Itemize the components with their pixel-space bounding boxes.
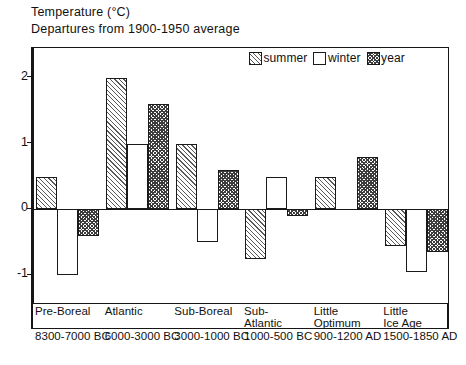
- category-date-line-1: 1000-: [244, 330, 274, 342]
- plot-inner-canvas: [32, 48, 448, 303]
- bar-summer-atlantic: [106, 78, 127, 210]
- category-name-row: Pre-BorealAtlanticSub-BorealSub-Atlantic…: [31, 304, 449, 329]
- bar-winter-sub-boreal: [197, 209, 218, 242]
- y-tick-label: 1: [8, 135, 28, 149]
- bar-year-sub-atlantic: [287, 209, 308, 216]
- category-date-5: 900-1200 AD: [314, 330, 382, 343]
- legend-label-winter: winter: [328, 51, 361, 65]
- chart-subtitle-line-2: Departures from 1900-1950 average: [31, 21, 240, 38]
- bar-year-pre-boreal: [78, 209, 99, 235]
- category-name-6: LittleIce Age: [383, 305, 422, 330]
- category-name-line-1: Atlantic: [105, 305, 143, 317]
- y-tick-mark: [27, 208, 32, 210]
- chart-legend: summerwinteryear: [249, 51, 405, 65]
- bar-winter-atlantic: [127, 144, 148, 210]
- category-date-line-2: 1000 BC: [204, 330, 249, 342]
- legend-entry-summer: summer: [249, 51, 307, 65]
- plot-area: [31, 47, 449, 304]
- category-date-line-1: 3000-: [174, 330, 204, 342]
- legend-entry-winter: winter: [313, 51, 360, 65]
- chart-title-line-1: Temperature (°C): [31, 4, 240, 21]
- legend-swatch-year: [367, 52, 380, 65]
- category-date-6: 1500-1850 AD: [383, 330, 457, 343]
- chart-title-block: Temperature (°C) Departures from 1900-19…: [31, 4, 240, 38]
- bar-winter-pre-boreal: [57, 209, 78, 275]
- y-tick-mark: [27, 274, 32, 276]
- bar-summer-little-ice-age: [385, 209, 406, 245]
- y-tick-label: -1: [8, 266, 28, 280]
- y-axis: [31, 47, 34, 304]
- y-tick-label: 0: [8, 200, 28, 214]
- category-name-line-1: Sub-: [244, 305, 269, 317]
- bar-year-atlantic: [148, 104, 169, 209]
- category-name-1: Pre-Boreal: [35, 305, 90, 317]
- category-date-line-2: 1850 AD: [413, 330, 457, 342]
- category-name-line-1: Little: [383, 305, 408, 317]
- legend-label-summer: summer: [264, 51, 308, 65]
- legend-swatch-winter: [313, 52, 326, 65]
- category-name-line-1: Sub-Boreal: [174, 305, 232, 317]
- category-name-line-2: Optimum: [314, 317, 361, 329]
- legend-entry-year: year: [367, 51, 405, 65]
- temperature-departures-chart: Temperature (°C) Departures from 1900-19…: [0, 0, 466, 365]
- category-date-line-2: 7000 BC: [65, 330, 110, 342]
- category-date-line-2: 3000 BC: [134, 330, 179, 342]
- category-name-line-1: Pre-Boreal: [35, 305, 90, 317]
- bar-summer-little-optimum: [315, 177, 336, 210]
- category-name-line-2: Atlantic: [244, 317, 282, 329]
- x-axis-category-table: Pre-BorealAtlanticSub-BorealSub-Atlantic…: [31, 304, 449, 362]
- category-date-1: 8300-7000 BC: [35, 330, 110, 343]
- category-date-row: 8300-7000 BC6000-3000 BC3000-1000 BC1000…: [31, 330, 449, 362]
- category-date-line-1: 6000-: [105, 330, 135, 342]
- category-name-line-2: Ice Age: [383, 317, 422, 329]
- category-name-line-1: Little: [314, 305, 339, 317]
- bar-year-little-ice-age: [427, 209, 448, 252]
- category-date-2: 6000-3000 BC: [105, 330, 180, 343]
- legend-swatch-summer: [249, 52, 262, 65]
- category-name-4: Sub-Atlantic: [244, 305, 282, 330]
- bar-year-little-optimum: [357, 157, 378, 210]
- category-date-4: 1000-500 BC: [244, 330, 312, 343]
- bar-summer-sub-atlantic: [245, 209, 266, 258]
- category-name-5: LittleOptimum: [314, 305, 361, 330]
- category-date-line-1: 8300-: [35, 330, 65, 342]
- category-date-line-2: 500 BC: [274, 330, 313, 342]
- table-right-border: [447, 304, 449, 329]
- bar-summer-pre-boreal: [36, 177, 57, 210]
- legend-label-year: year: [381, 51, 405, 65]
- table-left-border: [31, 304, 33, 329]
- category-date-3: 3000-1000 BC: [174, 330, 249, 343]
- category-name-2: Atlantic: [105, 305, 143, 317]
- y-tick-label: 2: [8, 69, 28, 83]
- category-date-line-2: 1200 AD: [337, 330, 381, 342]
- category-date-line-1: 1500-: [383, 330, 413, 342]
- bar-year-sub-boreal: [218, 170, 239, 210]
- y-tick-mark: [27, 76, 32, 78]
- bar-winter-little-ice-age: [406, 209, 427, 272]
- y-tick-mark: [27, 142, 32, 144]
- category-name-3: Sub-Boreal: [174, 305, 232, 317]
- bar-summer-sub-boreal: [176, 144, 197, 210]
- bar-winter-sub-atlantic: [266, 177, 287, 210]
- category-date-line-1: 900-: [314, 330, 337, 342]
